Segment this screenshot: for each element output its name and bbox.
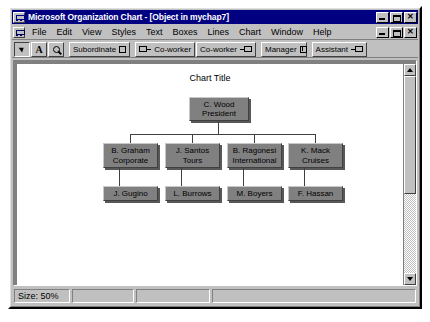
title-bar[interactable]: Microsoft Organization Chart - [Object i… (12, 10, 418, 24)
triangle-up-icon (407, 68, 413, 72)
document-window: Chart Title C. Wood President (16, 63, 416, 285)
application-window-inner: Microsoft Organization Chart - [Object i… (10, 8, 420, 307)
close-button[interactable]: ✕ (404, 12, 417, 23)
org-node-manager-2[interactable]: J. Santos Tours (165, 143, 220, 168)
coworker-right-label: Co-worker (200, 45, 237, 54)
menu-item-lines[interactable]: Lines (202, 26, 234, 38)
org-node-manager-1-dept: Corporate (113, 156, 149, 166)
coworker-left-label: Co-worker (154, 45, 191, 54)
scroll-up-button[interactable] (404, 64, 416, 76)
menu-bar: File Edit View Styles Text Boxes Lines C… (12, 25, 418, 40)
menu-item-styles[interactable]: Styles (106, 26, 141, 38)
text-tool-icon: A (35, 44, 42, 55)
manager-icon (300, 46, 303, 53)
connector-to-manager-1 (130, 134, 131, 143)
org-node-manager-2-name: J. Santos (176, 146, 209, 156)
org-node-manager-4-name: K. Mack (301, 146, 330, 156)
org-node-manager-1-name: B. Graham (111, 146, 150, 156)
org-node-staff-4[interactable]: F. Hassan (288, 186, 343, 201)
org-node-staff-1-name: J. Gugino (113, 189, 147, 199)
connector-root-down (218, 121, 219, 134)
coworker-left-icon (139, 46, 151, 52)
status-panel-4 (212, 289, 416, 303)
menu-item-edit[interactable]: Edit (52, 26, 78, 38)
org-node-manager-3-dept: International (232, 156, 276, 166)
assistant-icon (351, 46, 363, 52)
org-node-root-name: C. Wood (204, 100, 235, 110)
mdi-client-area: Chart Title C. Wood President (13, 60, 417, 286)
status-panel-3 (136, 289, 210, 303)
add-subordinate-button[interactable]: Subordinate (69, 42, 130, 57)
menu-item-chart[interactable]: Chart (234, 26, 266, 38)
window-controls: ✕ (376, 12, 417, 23)
connector-to-manager-2 (192, 134, 193, 143)
org-node-root-title: President (202, 109, 236, 119)
menu-item-window[interactable]: Window (266, 26, 308, 38)
assistant-label: Assistant (316, 45, 348, 54)
zoom-tool-button[interactable] (48, 42, 64, 57)
application-window: Microsoft Organization Chart - [Object i… (8, 6, 422, 309)
connector-manager-bus (130, 134, 316, 135)
org-node-staff-2-name: L. Burrows (173, 189, 211, 199)
connector-to-manager-4 (315, 134, 316, 143)
connector-manager-4-staff (304, 168, 305, 186)
org-node-manager-3-name: B. Ragonesi (233, 146, 277, 156)
connector-manager-3-staff (243, 168, 244, 186)
add-coworker-right-button[interactable]: Co-worker (196, 42, 256, 57)
vertical-scrollbar-thumb[interactable] (404, 76, 416, 194)
arrow-pointer-icon (19, 45, 26, 52)
subordinate-icon (119, 46, 126, 53)
org-node-manager-4-dept: Cruises (302, 156, 329, 166)
document-restore-button[interactable] (390, 27, 403, 38)
menu-item-text[interactable]: Text (141, 26, 168, 38)
document-window-controls: ✕ (376, 27, 417, 38)
org-node-manager-4[interactable]: K. Mack Cruises (288, 143, 343, 168)
document-close-button[interactable]: ✕ (404, 27, 417, 38)
connector-manager-2-staff (181, 168, 182, 186)
minimize-button[interactable] (376, 12, 389, 23)
coworker-right-icon (240, 46, 252, 52)
org-node-staff-3[interactable]: M. Boyers (227, 186, 282, 201)
chart-canvas[interactable]: Chart Title C. Wood President (17, 64, 403, 285)
menu-item-help[interactable]: Help (308, 26, 337, 38)
restore-button[interactable] (390, 12, 403, 23)
org-node-manager-2-dept: Tours (183, 156, 203, 166)
org-node-manager-3[interactable]: B. Ragonesi International (227, 143, 282, 168)
subordinate-label: Subordinate (73, 45, 116, 54)
vertical-scrollbar[interactable] (403, 64, 416, 285)
status-bar: Size: 50% (13, 288, 417, 304)
toolbar: A Subordinate Co-worker Co-worker (12, 41, 418, 58)
add-assistant-button[interactable]: Assistant (312, 42, 367, 57)
select-tool-button[interactable] (14, 42, 30, 57)
org-node-manager-1[interactable]: B. Graham Corporate (103, 143, 158, 168)
connector-manager-1-staff (119, 168, 120, 186)
document-minimize-button[interactable] (376, 27, 389, 38)
org-node-staff-2[interactable]: L. Burrows (165, 186, 220, 201)
triangle-down-icon (407, 277, 413, 281)
scroll-down-button[interactable] (404, 273, 416, 285)
orgchart-icon[interactable] (13, 12, 25, 23)
menu-item-boxes[interactable]: Boxes (167, 26, 202, 38)
status-size-panel: Size: 50% (14, 289, 70, 303)
vertical-scrollbar-track[interactable] (404, 76, 416, 273)
org-node-staff-3-name: M. Boyers (236, 189, 272, 199)
connector-to-manager-3 (254, 134, 255, 143)
org-node-root[interactable]: C. Wood President (189, 97, 249, 121)
manager-label: Manager (265, 45, 297, 54)
document-icon[interactable] (13, 27, 25, 38)
menu-item-file[interactable]: File (27, 26, 52, 38)
text-tool-button[interactable]: A (31, 42, 47, 57)
add-coworker-left-button[interactable]: Co-worker (135, 42, 195, 57)
status-panel-2 (72, 289, 134, 303)
add-manager-button[interactable]: Manager (261, 42, 307, 57)
org-node-staff-4-name: F. Hassan (298, 189, 334, 199)
org-node-staff-1[interactable]: J. Gugino (103, 186, 158, 201)
menu-item-view[interactable]: View (77, 26, 106, 38)
chart-title[interactable]: Chart Title (17, 73, 403, 83)
window-title: Microsoft Organization Chart - [Object i… (28, 12, 376, 22)
magnifier-icon (53, 46, 60, 53)
